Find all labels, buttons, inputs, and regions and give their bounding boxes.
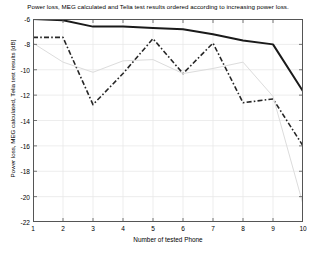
series-line-1 <box>33 37 303 145</box>
y-tick-label: -6 <box>6 16 30 23</box>
y-axis-tick-labels: -6-8-10-12-14-16-18-20-22 <box>3 19 30 222</box>
series-line-0 <box>33 19 303 91</box>
gridlines <box>33 19 303 222</box>
x-tick-label: 4 <box>113 225 133 232</box>
series-lines <box>33 19 303 204</box>
plot-svg <box>33 19 303 222</box>
y-axis-label: Power loss, MEG calculated, Telia test r… <box>9 34 16 184</box>
x-tick-label: 1 <box>23 225 43 232</box>
x-tick-label: 6 <box>173 225 193 232</box>
x-tick-label: 9 <box>263 225 283 232</box>
x-axis-label: Number of tested Phone <box>33 236 303 243</box>
plot-area <box>33 19 303 222</box>
x-tick-label: 2 <box>53 225 73 232</box>
y-axis-label-holder: Power loss, MEG calculated, Telia test r… <box>0 0 1 1</box>
y-tick-label: -20 <box>6 193 30 200</box>
x-tick-label: 5 <box>143 225 163 232</box>
chart-title: Power loss, MEG calculated and Telia tes… <box>0 2 316 11</box>
x-tick-label: 8 <box>233 225 253 232</box>
x-tick-label: 7 <box>203 225 223 232</box>
chart-figure: Power loss, MEG calculated and Telia tes… <box>0 0 316 264</box>
series-line-2 <box>33 43 303 204</box>
x-tick-label: 10 <box>293 225 313 232</box>
x-tick-label: 3 <box>83 225 103 232</box>
x-axis-tick-labels: 12345678910 <box>33 225 303 235</box>
